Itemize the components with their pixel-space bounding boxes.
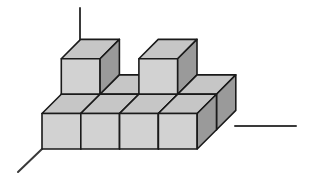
isometric-cube-figure (0, 0, 310, 176)
cube-face-front (139, 59, 178, 94)
cube-face-front (61, 59, 100, 94)
cube-face-front (42, 114, 81, 150)
cube-stack-canvas (0, 0, 310, 176)
cube-face-front (120, 114, 159, 150)
cube-face-front (158, 114, 197, 150)
cube-face-front (81, 114, 120, 150)
